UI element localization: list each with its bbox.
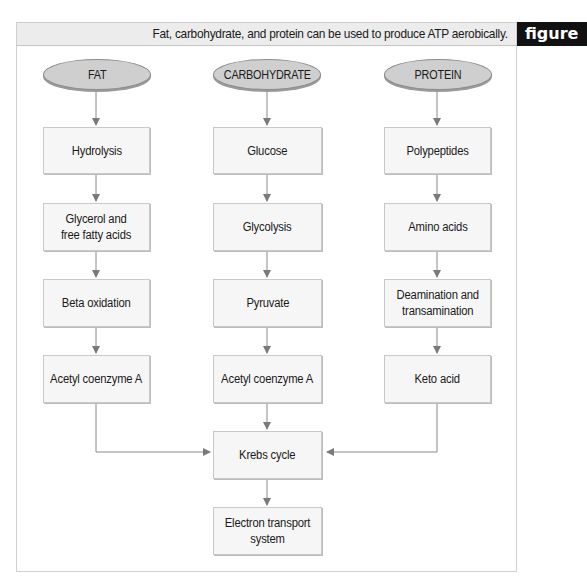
carb-step-label: Acetyl coenzyme A xyxy=(222,371,314,387)
protein-step-polypeptides: Polypeptides xyxy=(384,127,491,174)
electron-transport-label: Electron transport system xyxy=(225,515,311,547)
carb-step-glycolysis: Glycolysis xyxy=(213,203,322,251)
fat-step-glycerol: Glycerol and free fatty acids xyxy=(43,203,150,251)
protein-step-amino-acids: Amino acids xyxy=(384,203,491,251)
carb-step-label: Pyruvate xyxy=(246,295,289,311)
fat-step-label: Acetyl coenzyme A xyxy=(51,371,143,387)
protein-step-label: Keto acid xyxy=(415,371,460,387)
source-carbohydrate-label: CARBOHYDRATE xyxy=(223,67,310,83)
protein-step-deamination: Deamination and transamination xyxy=(384,279,491,327)
fat-step-acetyl-coa: Acetyl coenzyme A xyxy=(43,355,150,403)
protein-step-keto-acid: Keto acid xyxy=(384,355,491,403)
source-fat: FAT xyxy=(43,59,151,90)
carb-step-glucose: Glucose xyxy=(213,127,322,174)
source-protein-label: PROTEIN xyxy=(415,67,462,83)
electron-transport-system: Electron transport system xyxy=(213,507,322,555)
krebs-cycle: Krebs cycle xyxy=(213,431,322,479)
carb-step-label: Glucose xyxy=(247,143,287,159)
source-protein: PROTEIN xyxy=(384,59,492,90)
protein-step-label: Amino acids xyxy=(408,219,467,235)
carb-step-acetyl-coa: Acetyl coenzyme A xyxy=(213,355,322,403)
fat-step-hydrolysis: Hydrolysis xyxy=(43,127,150,174)
source-carbohydrate: CARBOHYDRATE xyxy=(213,59,321,90)
protein-step-label: Polypeptides xyxy=(406,143,468,159)
source-fat-label: FAT xyxy=(88,67,106,83)
fat-step-beta-oxidation: Beta oxidation xyxy=(43,279,150,327)
carb-step-pyruvate: Pyruvate xyxy=(213,279,322,327)
fat-step-label: Glycerol and free fatty acids xyxy=(61,211,131,243)
fat-step-label: Beta oxidation xyxy=(62,295,131,311)
protein-step-label: Deamination and transamination xyxy=(396,287,478,319)
krebs-cycle-label: Krebs cycle xyxy=(239,447,295,463)
carb-step-label: Glycolysis xyxy=(243,219,292,235)
fat-step-label: Hydrolysis xyxy=(71,143,121,159)
